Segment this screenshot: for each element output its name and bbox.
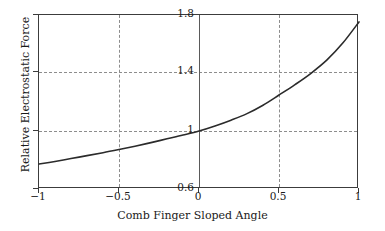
tick-y-1.8: [33, 14, 38, 15]
y-tick-label-1: 1: [168, 124, 194, 135]
chart-figure: 1.8 1.4 1 0.6 −1 −0.5 0 0.5 1 Comb Finge…: [0, 0, 385, 231]
x-tick-label--0.5: −0.5: [98, 191, 138, 202]
y-tick-label-1.4: 1.4: [168, 65, 194, 76]
x-tick-label-0: 0: [178, 191, 218, 202]
x-tick-label--1: −1: [18, 191, 58, 202]
x-tick-label-1: 1: [338, 191, 378, 202]
x-tick-label-0.5: 0.5: [258, 191, 298, 202]
y-axis-title: Relative Electrostatic Force: [19, 10, 32, 180]
x-axis-title: Comb Finger Sloped Angle: [0, 209, 385, 222]
data-curve: [39, 15, 359, 189]
y-tick-label-1.8: 1.8: [168, 8, 194, 19]
plot-area: [38, 14, 358, 188]
tick-y-1.4: [33, 71, 38, 72]
tick-y-1.0: [33, 130, 38, 131]
